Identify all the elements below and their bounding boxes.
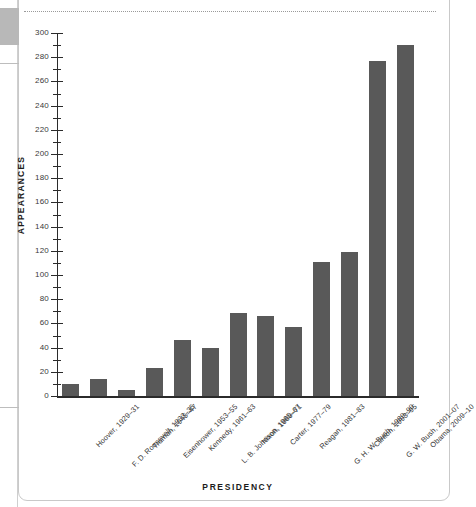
bar [369, 61, 386, 396]
bar [174, 340, 191, 396]
y-tick-label: 140 [3, 222, 49, 231]
y-tick-label: 20 [3, 367, 49, 376]
bars-layer [57, 33, 419, 396]
y-tick-label: 120 [3, 246, 49, 255]
x-axis-labels: Hoover, 1929–31F. D. Roosevelt, 1933–35T… [0, 398, 451, 488]
x-tick-label: Hoover, 1929–31 [94, 402, 141, 449]
y-tick-label: 160 [3, 197, 49, 206]
y-tick-label: 180 [3, 173, 49, 182]
bar [341, 252, 358, 396]
bar [285, 327, 302, 396]
y-axis-title: APPEARANCES [16, 147, 26, 243]
y-tick-label: 280 [3, 52, 49, 61]
y-tick-label: 100 [3, 270, 49, 279]
y-tick-label: 240 [3, 101, 49, 110]
y-tick-label: 60 [3, 318, 49, 327]
bar [397, 45, 414, 396]
y-tick-label: 80 [3, 294, 49, 303]
y-tick-label: 220 [3, 125, 49, 134]
bar [313, 262, 330, 396]
y-tick-label: 260 [3, 76, 49, 85]
bar [202, 348, 219, 396]
bar [230, 313, 247, 396]
x-axis-title: PRESIDENCY [57, 482, 419, 492]
bar [257, 316, 274, 396]
y-tick-label: 300 [3, 28, 49, 37]
bar [90, 379, 107, 396]
y-tick-label: 200 [3, 149, 49, 158]
y-tick-label: 40 [3, 343, 49, 352]
bar [62, 384, 79, 396]
x-tick-label: Clinton, 1993–95 [372, 402, 419, 449]
bar [146, 368, 163, 396]
